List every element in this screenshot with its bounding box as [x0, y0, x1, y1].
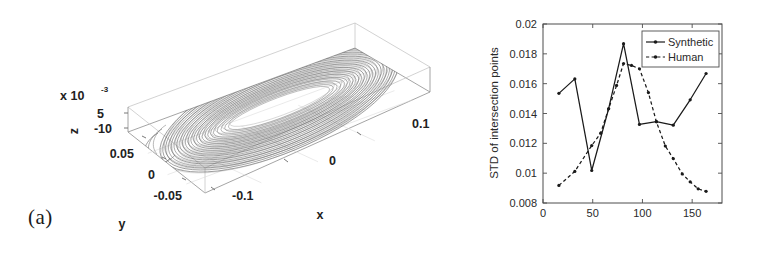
chart-ytick-label: 0.014 — [509, 108, 537, 120]
chart-point-synthetic — [590, 169, 593, 172]
y-tick-neg005: -0.05 — [154, 189, 183, 203]
chart-xtick-label: 150 — [683, 207, 701, 219]
chart-point-human — [655, 120, 658, 123]
chart-svg: 0501001500.0080.010.0120.0140.0160.0180.… — [460, 0, 758, 253]
chart-xtick-label: 100 — [633, 207, 651, 219]
chart-point-synthetic — [638, 123, 641, 126]
z-tick-5: 5 — [97, 107, 104, 121]
chart-point-human — [615, 84, 618, 87]
chart-point-synthetic — [689, 98, 692, 101]
chart-ytick-label: 0.018 — [509, 48, 537, 60]
chart-point-human — [590, 144, 593, 147]
chart-point-human — [681, 172, 684, 175]
x-tick-01: 0.1 — [412, 117, 429, 131]
y-tick-005: 0.05 — [110, 147, 134, 161]
chart-point-human — [630, 64, 633, 67]
legend-label-synthetic: Synthetic — [668, 36, 714, 48]
chart-point-human — [573, 170, 576, 173]
chart-point-human — [664, 144, 667, 147]
chart-point-human — [622, 62, 625, 65]
chart-point-synthetic — [672, 124, 675, 127]
chart-ytick-label: 0.016 — [509, 78, 537, 90]
legend-marker-synthetic — [654, 40, 658, 44]
chart-legend[interactable]: Synthetic Human — [642, 31, 719, 67]
figure-root: x 10 -3 5 -10 z 0.05 0 -0.05 y -0.1 0 0.… — [0, 0, 758, 253]
y-tick-0: 0 — [148, 168, 155, 182]
chart-point-human — [647, 91, 650, 94]
chart-point-human — [672, 157, 675, 160]
x-tick-0: 0 — [329, 154, 336, 168]
chart-point-human — [704, 190, 707, 193]
panel-label-a: (a) — [28, 205, 53, 230]
chart-y-axis-title: STD of intersection points — [488, 47, 500, 179]
z-exponent-base: x 10 — [60, 89, 84, 103]
x-axis-title: x — [317, 208, 324, 222]
chart-ytick-label: 0.02 — [516, 18, 537, 30]
legend-label-human: Human — [668, 51, 703, 63]
x-tick-neg01: -0.1 — [232, 189, 254, 203]
z-axis-exponent: x 10 -3 — [60, 85, 109, 103]
chart-point-synthetic — [704, 72, 707, 75]
z-axis-title: z — [67, 128, 81, 134]
trajectory-3d — [144, 15, 404, 199]
z-tick-neg10: -10 — [94, 122, 112, 136]
chart-xtick-label: 0 — [540, 207, 546, 219]
chart-point-human — [638, 67, 641, 70]
chart-point-human — [607, 107, 610, 110]
legend-marker-human — [654, 55, 658, 59]
z-exponent-power: -3 — [101, 85, 109, 94]
chart-point-human — [557, 184, 560, 187]
panel-a-3d-phase-portrait: x 10 -3 5 -10 z 0.05 0 -0.05 y -0.1 0 0.… — [0, 0, 460, 253]
chart-point-human — [599, 132, 602, 135]
chart-xtick-label: 50 — [587, 207, 599, 219]
chart-ytick-label: 0.008 — [509, 197, 537, 209]
chart-point-synthetic — [557, 92, 560, 95]
chart-ytick-label: 0.01 — [516, 167, 537, 179]
chart-ytick-label: 0.012 — [509, 137, 537, 149]
panel-b-line-chart: 0501001500.0080.010.0120.0140.0160.0180.… — [460, 0, 758, 253]
chart-point-human — [697, 187, 700, 190]
y-axis-title: y — [119, 217, 126, 231]
chart-point-human — [689, 180, 692, 183]
panel-a-svg: x 10 -3 5 -10 z 0.05 0 -0.05 y -0.1 0 0.… — [0, 0, 460, 253]
chart-point-synthetic — [573, 77, 576, 80]
chart-point-synthetic — [622, 42, 625, 45]
